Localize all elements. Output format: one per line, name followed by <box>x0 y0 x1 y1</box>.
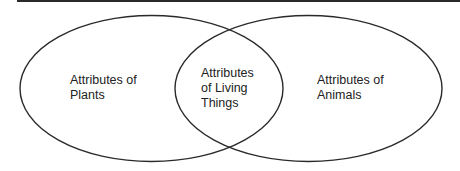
plants-label-line-1: Attributes of <box>70 73 137 88</box>
animals-label: Attributes of Animals <box>317 73 384 103</box>
living-things-label-line-3: Things <box>201 96 254 111</box>
plants-label-line-2: Plants <box>70 88 137 103</box>
animals-label-line-2: Animals <box>317 88 384 103</box>
animals-label-line-1: Attributes of <box>317 73 384 88</box>
living-things-label-line-1: Attributes <box>201 66 254 81</box>
living-things-label-line-2: of Living <box>201 81 254 96</box>
plants-label: Attributes of Plants <box>70 73 137 103</box>
living-things-label: Attributes of Living Things <box>201 66 254 111</box>
